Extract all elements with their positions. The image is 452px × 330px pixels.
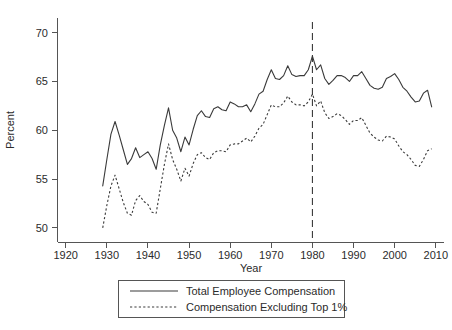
x-tick-label: 1970	[259, 249, 283, 261]
legend-label-1: Compensation Excluding Top 1%	[186, 301, 347, 313]
x-tick-label: 1920	[53, 249, 77, 261]
y-tick-label: 60	[36, 124, 48, 136]
y-tick-label: 70	[36, 27, 48, 39]
x-axis-title: Year	[240, 262, 263, 274]
x-tick-label: 2000	[382, 249, 406, 261]
legend-label-0: Total Employee Compensation	[186, 285, 335, 297]
x-tick-label: 2010	[424, 249, 448, 261]
x-tick-label: 1990	[341, 249, 365, 261]
y-tick-label: 50	[36, 222, 48, 234]
chart-legend: Total Employee Compensation Compensation…	[119, 281, 348, 318]
x-tick-label: 1960	[218, 249, 242, 261]
y-tick-label: 65	[36, 75, 48, 87]
x-tick-label: 1940	[136, 249, 160, 261]
x-tick-label: 1980	[300, 249, 324, 261]
chart-figure: 5055606570 19201930194019501960197019801…	[0, 0, 452, 330]
x-tick-label: 1950	[177, 249, 201, 261]
line-chart: 5055606570 19201930194019501960197019801…	[0, 0, 452, 330]
x-tick-label: 1930	[95, 249, 119, 261]
y-tick-label: 55	[36, 173, 48, 185]
y-axis-title: Percent	[4, 111, 16, 149]
